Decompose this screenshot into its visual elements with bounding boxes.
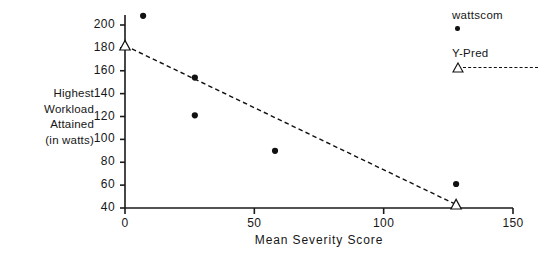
series-wattscom-markers	[140, 13, 459, 187]
y-axis-title-line-2: Workload	[8, 102, 94, 118]
data-point-wattscom	[272, 148, 278, 154]
data-point-wattscom	[192, 112, 198, 118]
y-tick-label: 80	[81, 154, 115, 168]
dashed-line-icon	[463, 67, 538, 68]
data-point-wattscom	[453, 181, 459, 187]
x-tick-label: 0	[105, 216, 145, 230]
y-axis-title-line-4: (in watts)	[8, 133, 94, 149]
y-tick-label: 40	[81, 200, 115, 214]
chart-figure: 406080100120140160180200 050100150 Highe…	[0, 0, 541, 258]
y-tick-label: 200	[81, 17, 115, 31]
y-tick-label: 180	[81, 40, 115, 54]
series-ypred-markers	[120, 40, 461, 209]
y-tick-label: 160	[81, 63, 115, 77]
legend-entry-wattscom: wattscom	[452, 8, 538, 38]
y-axis-title-line-1: Highest	[8, 86, 94, 102]
legend-entry-ypred: Y-Pred	[452, 46, 538, 76]
x-tick-label: 50	[234, 216, 274, 230]
y-axis-title-line-3: Attained	[8, 117, 94, 133]
filled-circle-icon	[455, 26, 460, 31]
legend-sample-wattscom	[452, 22, 538, 38]
x-axis-title: Mean Severity Score	[125, 233, 513, 247]
data-point-wattscom	[140, 13, 146, 19]
x-tick-label: 100	[364, 216, 404, 230]
data-point-wattscom	[192, 75, 198, 81]
y-pred-trend-line	[125, 46, 456, 205]
chart-legend: wattscom Y-Pred	[452, 8, 538, 76]
y-axis-title: Highest Workload Attained (in watts)	[8, 86, 94, 148]
y-tick-label: 60	[81, 177, 115, 191]
data-point-ypred	[451, 199, 461, 209]
legend-label-wattscom: wattscom	[452, 8, 538, 22]
legend-label-ypred: Y-Pred	[452, 46, 538, 60]
x-tick-label: 150	[493, 216, 533, 230]
legend-sample-ypred	[452, 60, 538, 76]
data-point-ypred	[120, 40, 130, 50]
